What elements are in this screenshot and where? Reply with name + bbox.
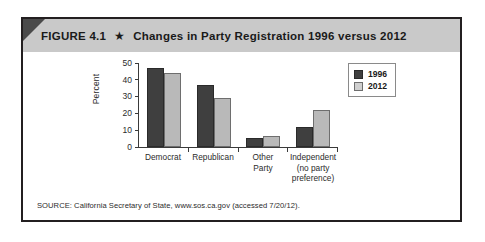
y-axis-label: Percent [91,39,101,139]
x-axis-category-label-line: (no party [288,163,338,174]
y-axis-tick-label: 10 [123,126,132,135]
chart-body: Percent 01020304050 DemocratRepublicanOt… [23,52,460,189]
legend-item-2012: 2012 [354,80,387,92]
figure-frame: FIGURE 4.1 ★ Changes in Party Registrati… [21,17,462,222]
y-axis-tick-label: 30 [123,92,132,101]
star-icon: ★ [113,30,126,42]
x-axis-category-label-line: Party [238,163,288,174]
x-axis-category-label-line: Democrat [138,152,188,163]
bar-group [239,64,289,147]
bar-2012-democrat [164,73,181,147]
figure-source-note: SOURCE: California Secretary of State, w… [37,201,300,210]
bar-2012-independent [313,110,330,147]
bar-group [288,64,338,147]
x-axis-category-label-line: preference) [288,173,338,184]
chart-legend: 19962012 [348,63,396,97]
figure-header-band: FIGURE 4.1 ★ Changes in Party Registrati… [23,19,460,52]
x-axis-category-label: Republican [188,152,238,184]
bar-2012-other [263,136,280,147]
bar-group [189,64,239,147]
y-axis-tick-label: 0 [127,143,132,152]
bar-1996-democrat [147,68,164,147]
x-axis-category-label-line: Independent [288,152,338,163]
bar-groups [139,64,338,147]
bar-1996-republican [197,85,214,147]
bar-1996-independent [296,127,313,147]
x-axis-category-labels: DemocratRepublicanOtherPartyIndependent(… [138,152,338,184]
y-axis-tick-label: 40 [123,76,132,85]
bar-1996-other [246,138,263,147]
legend-label-2012: 2012 [368,81,387,91]
x-axis-category-label-line: Republican [188,152,238,163]
x-axis-category-label: Democrat [138,152,188,184]
legend-label-1996: 1996 [368,69,387,79]
y-axis-tick-label: 50 [123,59,132,68]
x-axis-category-label: Independent(no partypreference) [288,152,338,184]
y-axis-tick-label: 20 [123,109,132,118]
plot-area: 01020304050 [138,64,338,148]
x-axis-category-label: OtherParty [238,152,288,184]
plot-wrapper: Percent 01020304050 DemocratRepublicanOt… [106,64,338,188]
legend-item-1996: 1996 [354,68,387,80]
legend-swatch-1996 [354,70,363,79]
bar-group [139,64,189,147]
bar-2012-republican [214,98,231,147]
figure-title: Changes in Party Registration 1996 versu… [133,30,407,42]
x-axis-category-label-line: Other [238,152,288,163]
legend-swatch-2012 [354,82,363,91]
